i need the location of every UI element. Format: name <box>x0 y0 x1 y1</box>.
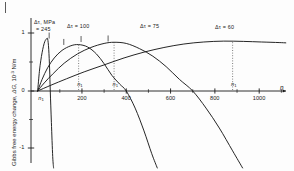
marker-n1-label-0: n1 <box>77 82 82 88</box>
marker-n1-label-2: n1 <box>231 82 236 88</box>
x-tick-label-2: 600 <box>166 96 175 102</box>
y-tick-label-2: -1 <box>19 145 24 151</box>
x-tick-label-4: 1000 <box>253 96 265 102</box>
marker-n1-label-1: n1 <box>113 82 118 88</box>
curve-2 <box>38 45 158 168</box>
curve-1 <box>38 38 54 168</box>
x-tick-label-3: 800 <box>210 96 219 102</box>
x-axis-label: n <box>280 85 284 91</box>
curve-4 <box>38 41 286 91</box>
y-axis-label: Gibbs free energy change, ΔG, 10-3 N/m <box>11 58 17 166</box>
x-tick-label-0: 200 <box>77 96 86 102</box>
curve-label-1-line2: = 245 <box>36 27 51 32</box>
axis-n1-label: n1 <box>38 96 43 102</box>
curve-label-2: Δτ = 100 <box>67 24 89 29</box>
curve-label-1-line1: Δτ, MPa <box>34 20 55 25</box>
x-tick-label-1: 400 <box>121 96 130 102</box>
y-tick-label-0: 1 <box>22 30 25 36</box>
curve-3 <box>38 42 243 168</box>
curve-label-4: Δτ = 60 <box>215 25 234 30</box>
y-tick-label-1: 0 <box>22 88 25 94</box>
curve-label-3: Δτ = 75 <box>140 24 159 29</box>
figure-container: Gibbs free energy change, ΔG, 10-3 N/m 2… <box>0 0 294 171</box>
